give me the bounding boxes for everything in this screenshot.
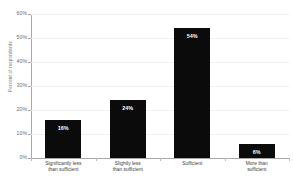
x-axis-category-label: Significantly lessthan sufficient — [31, 161, 96, 173]
plot-area: 16%24%54%6% — [31, 14, 289, 158]
chart-title-cutoff — [18, 0, 138, 4]
bar-value-label: 24% — [110, 105, 146, 111]
bar-value-label: 54% — [174, 33, 210, 39]
bar-slot: 6% — [239, 14, 275, 158]
y-axis-title: Percent of respondents — [8, 31, 13, 103]
x-axis-tick-mark — [289, 158, 290, 161]
x-axis-category-labels: Significantly lessthan sufficientSlightl… — [31, 161, 289, 178]
bar[interactable]: 6% — [239, 144, 275, 158]
bar[interactable]: 24% — [110, 100, 146, 158]
bar[interactable]: 54% — [174, 28, 210, 158]
y-axis-tick-labels: 60%50%40%30%20%10%0% — [0, 0, 27, 178]
x-axis-category-label-line: than sufficient — [96, 167, 161, 173]
x-axis-category-label: Slightly lessthan sufficient — [96, 161, 161, 173]
x-axis-category-label-line: than sufficient — [31, 167, 96, 173]
bar-value-label: 16% — [45, 125, 81, 131]
bar-slot: 16% — [45, 14, 81, 158]
bar-slot: 24% — [110, 14, 146, 158]
bar-chart: 60%50%40%30%20%10%0% Percent of responde… — [0, 0, 293, 178]
bar-value-label: 6% — [239, 149, 275, 155]
y-axis-tick-label: 10% — [3, 131, 27, 136]
bar[interactable]: 16% — [45, 120, 81, 158]
y-axis-tick-label: 0% — [3, 155, 27, 160]
y-axis-tick-label: 60% — [3, 11, 27, 16]
bar-series: 16%24%54%6% — [31, 14, 289, 158]
y-axis-tick-label: 20% — [3, 107, 27, 112]
bar-slot: 54% — [174, 14, 210, 158]
x-axis-category-label: Sufficient — [160, 161, 225, 167]
x-axis-category-label: More thansufficient — [225, 161, 290, 173]
x-axis-category-label-line: Sufficient — [160, 161, 225, 167]
x-axis-category-label-line: sufficient — [225, 167, 290, 173]
